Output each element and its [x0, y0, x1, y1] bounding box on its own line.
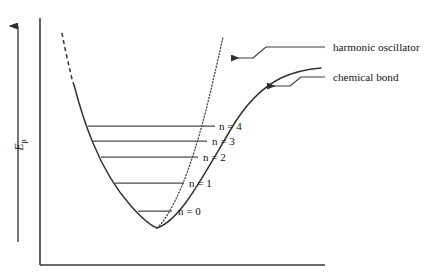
chemical-bond-curve	[62, 33, 321, 228]
chemical-bond-solid-path	[74, 68, 321, 228]
annotation-chemical-bond: chemical bond	[267, 71, 399, 86]
potential-energy-diagram: Ep n = 4 n = 3 n = 2	[0, 0, 441, 274]
energy-level-label-n3: n = 3	[212, 135, 235, 147]
energy-level-label-n1: n = 1	[189, 177, 212, 189]
diagram-canvas: Ep n = 4 n = 3 n = 2	[0, 0, 441, 274]
harmonic-oscillator-curve	[157, 37, 223, 228]
y-axis-label: Ep	[12, 139, 28, 152]
harmonic-oscillator-path	[157, 37, 223, 228]
chemical-bond-dashed-path	[62, 33, 74, 85]
harmonic-oscillator-leader-line	[231, 47, 325, 58]
chemical-bond-label: chemical bond	[333, 71, 399, 83]
y-axis-label-group: Ep	[12, 139, 28, 152]
energy-level-label-n0: n = 0	[178, 205, 201, 217]
energy-level-label-n4: n = 4	[219, 120, 242, 132]
harmonic-oscillator-label: harmonic oscillator	[333, 41, 420, 53]
energy-levels-group	[88, 126, 215, 211]
annotation-harmonic-oscillator: harmonic oscillator	[231, 41, 420, 58]
energy-level-labels-group: n = 4 n = 3 n = 2 n = 1 n = 0	[178, 120, 242, 217]
energy-level-label-n2: n = 2	[203, 151, 226, 163]
y-axis-label-subscript: p	[19, 139, 28, 143]
